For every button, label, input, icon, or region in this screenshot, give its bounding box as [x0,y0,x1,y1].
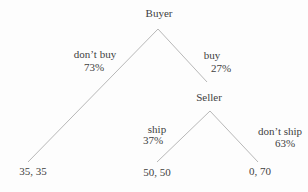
edge-ship [157,111,210,162]
payoff-dont-buy: 35, 35 [19,165,47,178]
buyer-node-label: Buyer [146,7,173,20]
game-tree-diagram: Buyer don’t buy 73% buy 27% Seller ship … [0,0,308,192]
branch-dont-buy-label: don’t buy [74,48,116,61]
branch-dont-ship-probability: 63% [275,137,295,150]
branch-ship-probability: 37% [143,134,163,147]
edge-dont-ship [210,111,258,162]
payoff-dont-ship: 0, 70 [249,165,271,178]
tree-edges [0,0,308,192]
branch-buy-label: buy [204,49,221,62]
edge-buy [158,29,207,82]
seller-node-label: Seller [196,91,222,104]
branch-dont-buy-probability: 73% [84,61,104,74]
payoff-ship: 50, 50 [143,166,171,179]
branch-buy-probability: 27% [211,62,231,75]
